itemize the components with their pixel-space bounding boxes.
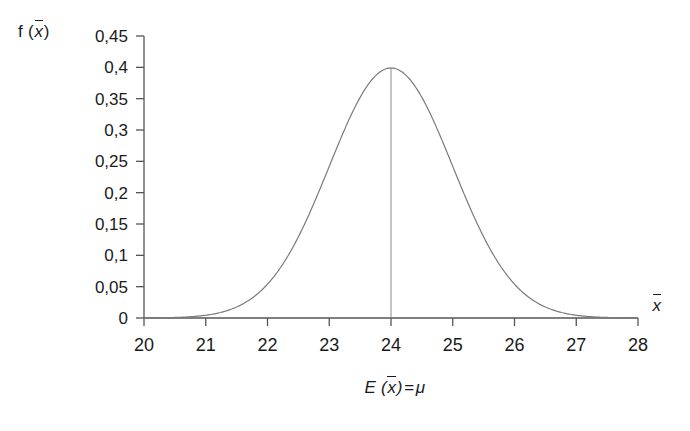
y-tick-label: 0,15 [68,216,128,233]
y-tick-label: 0,25 [68,153,128,170]
x-bar-symbol: x [652,296,662,316]
normal-distribution-chart: f (x) x 00,050,10,150,20,250,30,350,40,4… [0,0,690,431]
x-tick-label: 20 [124,336,164,354]
x-tick-label: 27 [556,336,596,354]
y-tick-label: 0,3 [68,122,128,139]
x-tick-label: 24 [371,336,411,354]
x-bar-symbol: x [34,22,44,42]
x-axis-ticks [144,318,638,326]
y-tick-label: 0,35 [68,91,128,108]
x-tick-label: 26 [495,336,535,354]
x-bar-symbol: x [387,378,397,398]
y-tick-label: 0 [68,310,128,327]
x-tick-label: 23 [309,336,349,354]
x-tick-label: 21 [186,336,226,354]
y-axis-ticks [136,36,144,318]
x-axis-label: x [652,296,662,316]
x-tick-label: 25 [433,336,473,354]
y-tick-label: 0,1 [68,247,128,264]
y-tick-label: 0,4 [68,59,128,76]
y-tick-label: 0,05 [68,279,128,296]
chart-caption: E (x) = μ [0,378,690,398]
y-axis-label: f (x) [18,22,50,42]
y-tick-label: 0,2 [68,185,128,202]
x-tick-label: 22 [248,336,288,354]
x-tick-label: 28 [618,336,658,354]
y-tick-label: 0,45 [68,28,128,45]
